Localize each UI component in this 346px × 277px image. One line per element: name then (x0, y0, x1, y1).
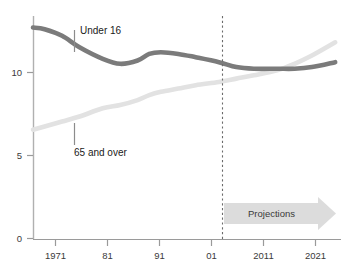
projections-arrow: Projections (224, 197, 336, 230)
y-axis-ticks (27, 73, 33, 239)
x-tick-label-2011: 2011 (253, 250, 273, 261)
y-tick-label-10: 10 (11, 67, 22, 78)
y-axis-labels: 0 5 10 (11, 67, 22, 244)
over-65-label: 65 and over (74, 147, 127, 158)
projections-label: Projections (248, 208, 295, 219)
x-tick-label-2021: 2021 (305, 250, 326, 261)
over-65-annotation: 65 and over (74, 123, 127, 158)
population-age-groups-line-chart: Projections 0 5 10 1971 (0, 0, 346, 277)
series-line-under-16 (33, 28, 335, 69)
x-tick-label-91: 91 (154, 250, 165, 261)
y-tick-label-5: 5 (17, 150, 22, 161)
x-axis-ticks (56, 240, 316, 246)
chart-canvas: Projections 0 5 10 1971 (0, 0, 346, 277)
x-tick-label-81: 81 (102, 250, 113, 261)
under-16-label: Under 16 (80, 25, 122, 36)
x-tick-label-01: 01 (206, 250, 217, 261)
x-tick-label-1971: 1971 (45, 250, 66, 261)
y-tick-label-0: 0 (17, 233, 22, 244)
x-axis-labels: 1971 81 91 01 2011 2021 (45, 250, 326, 261)
